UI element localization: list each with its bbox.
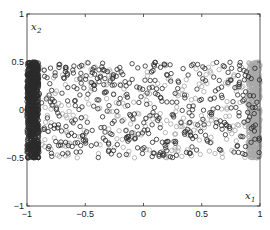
y-tick-label: 0.5 xyxy=(11,57,24,67)
x-tick-label: 0.5 xyxy=(195,209,208,219)
y-tick-label: 1 xyxy=(19,9,24,19)
y-tick-label: −0.5 xyxy=(6,153,24,163)
scatter-chart: −1−0.500.51−1−0.500.51 x 2 x 1 xyxy=(0,0,270,230)
x-axis-label-subscript: 1 xyxy=(251,196,255,204)
x-tick-label: 0 xyxy=(141,209,146,219)
y-tick-label: 0 xyxy=(19,105,24,115)
y-axis-label-subscript: 2 xyxy=(36,27,42,35)
y-tick-label: −1 xyxy=(14,201,24,211)
x-tick-label: −0.5 xyxy=(76,209,94,219)
x-tick-label: 1 xyxy=(257,209,262,219)
